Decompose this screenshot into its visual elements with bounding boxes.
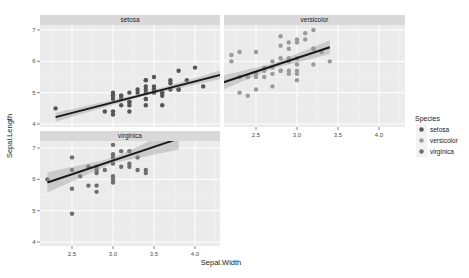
legend-marker (419, 149, 423, 153)
x-tick-label: 4.0 (375, 132, 384, 138)
legend-item-setosa: setosa (416, 124, 450, 135)
data-point (193, 65, 197, 69)
data-point (111, 143, 115, 147)
data-point (254, 50, 258, 54)
data-point (127, 165, 131, 169)
data-point (246, 94, 250, 98)
x-tick-label: 3.5 (334, 132, 343, 138)
data-point (295, 78, 299, 82)
data-point (328, 59, 332, 63)
data-point (287, 47, 291, 51)
x-tick-label: 3.0 (109, 251, 118, 257)
data-point (103, 168, 107, 172)
y-axis-title: Sepal.Length (5, 114, 14, 158)
faceted-scatter-chart: setosa4567versicolor2.53.03.54.0virginic… (0, 0, 469, 278)
data-point (287, 40, 291, 44)
data-point (237, 90, 241, 94)
data-point (303, 37, 307, 41)
data-point (160, 103, 164, 107)
data-point (168, 78, 172, 82)
data-point (278, 34, 282, 38)
x-axis-title: Sepal.Width (201, 258, 241, 267)
data-point (127, 90, 131, 94)
data-point (311, 28, 315, 32)
data-point (144, 78, 148, 82)
data-point (278, 69, 282, 73)
panel-virginica: virginica45672.53.03.54.0 (32, 128, 220, 257)
data-point (229, 53, 233, 57)
y-tick-label: 5 (32, 208, 36, 214)
data-point (229, 59, 233, 63)
data-point (270, 72, 274, 76)
data-point (144, 84, 148, 88)
data-point (111, 94, 115, 98)
data-point (295, 40, 299, 44)
data-point (94, 171, 98, 175)
data-point (119, 103, 123, 107)
x-tick-label: 3.5 (150, 251, 159, 257)
data-point (94, 183, 98, 187)
x-tick-label: 2.5 (252, 132, 261, 138)
x-tick-label: 4.0 (191, 251, 200, 257)
data-point (262, 75, 266, 79)
data-point (119, 94, 123, 98)
data-point (270, 59, 274, 63)
data-point (254, 87, 258, 91)
legend-marker (419, 138, 423, 142)
strip-label: setosa (120, 16, 140, 23)
data-point (135, 168, 139, 172)
data-point (111, 180, 115, 184)
data-point (144, 171, 148, 175)
data-point (295, 69, 299, 73)
data-point (295, 62, 299, 66)
data-point (70, 187, 74, 191)
legend-label: versicolor (430, 137, 459, 144)
data-point (144, 97, 148, 101)
data-point (111, 112, 115, 116)
y-tick-label: 6 (32, 176, 36, 182)
data-point (176, 69, 180, 73)
legend-item-versicolor: versicolor (416, 135, 459, 146)
y-tick-label: 4 (32, 239, 36, 245)
data-point (278, 43, 282, 47)
y-tick-label: 7 (32, 145, 36, 151)
legend-label: setosa (430, 126, 450, 133)
data-point (201, 84, 205, 88)
panel-setosa: setosa4567 (32, 15, 228, 127)
data-point (70, 155, 74, 159)
legend-label: virginica (430, 148, 454, 156)
legend: Species setosaversicolorvirginica (415, 115, 459, 157)
y-tick-label: 4 (32, 121, 36, 127)
data-point (94, 190, 98, 194)
x-tick-label: 2.5 (68, 251, 77, 257)
data-point (303, 31, 307, 35)
data-point (86, 183, 90, 187)
data-point (53, 106, 57, 110)
data-point (119, 165, 123, 169)
strip-label: versicolor (301, 16, 330, 23)
legend-item-virginica: virginica (416, 146, 454, 157)
data-point (119, 149, 123, 153)
panel-versicolor: versicolor2.53.03.54.0 (213, 15, 405, 138)
legend-title: Species (415, 115, 440, 123)
legend-marker (419, 127, 423, 131)
data-point (311, 62, 315, 66)
data-point (70, 212, 74, 216)
data-point (287, 69, 291, 73)
data-point (144, 103, 148, 107)
x-tick-label: 3.0 (293, 132, 302, 138)
y-tick-label: 5 (32, 90, 36, 96)
data-point (270, 84, 274, 88)
strip-label: virginica (118, 132, 142, 140)
y-tick-label: 6 (32, 58, 36, 64)
data-point (103, 109, 107, 113)
data-point (127, 109, 131, 113)
data-point (237, 50, 241, 54)
y-tick-label: 7 (32, 27, 36, 33)
data-point (152, 75, 156, 79)
